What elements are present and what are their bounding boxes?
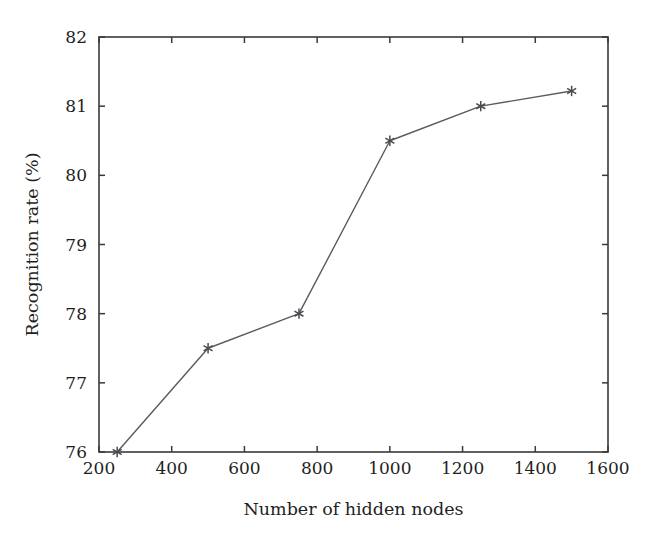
x-tick-label: 200 (83, 458, 115, 478)
y-tick-label: 78 (65, 304, 87, 324)
y-tick-label: 76 (65, 442, 87, 462)
y-tick-label: 81 (65, 96, 87, 116)
x-tick-label: 1400 (514, 458, 557, 478)
x-tick-label: 600 (228, 458, 260, 478)
line-chart: 2004006008001000120014001600 76777879808… (0, 0, 658, 546)
x-axis-title: Number of hidden nodes (243, 499, 463, 519)
y-tick-label: 79 (65, 235, 87, 255)
x-tick-label: 800 (301, 458, 333, 478)
x-tick-label: 1000 (368, 458, 411, 478)
chart-figure: 2004006008001000120014001600 76777879808… (0, 0, 658, 546)
y-tick-label: 82 (65, 27, 87, 47)
y-axis-title: Recognition rate (%) (22, 153, 42, 337)
y-tick-label: 80 (65, 165, 87, 185)
x-tick-label: 1600 (586, 458, 629, 478)
x-tick-label: 400 (155, 458, 187, 478)
x-tick-label: 1200 (441, 458, 484, 478)
y-tick-label: 77 (65, 373, 87, 393)
